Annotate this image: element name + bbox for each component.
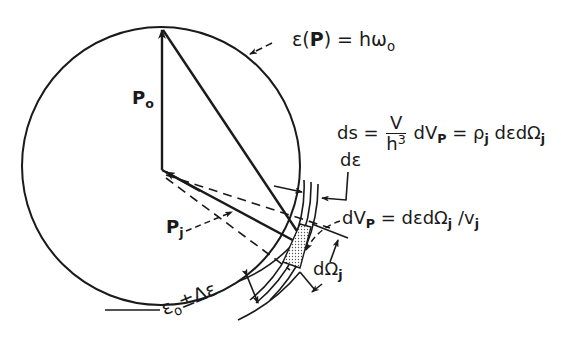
sub-j2: j <box>541 131 545 146</box>
subscript-o: o <box>387 39 395 54</box>
pj-symbol: P <box>166 216 179 237</box>
p0-subscript: o <box>145 96 154 111</box>
d-omega-symbol: dΩ <box>313 258 338 279</box>
p0-label: Po <box>132 89 154 107</box>
ds-lhs: ds = <box>337 122 384 143</box>
sub-p: P <box>366 216 375 231</box>
cone-line-upper <box>166 175 330 228</box>
d-eps-label: dε <box>340 151 361 169</box>
d-eps-d-omega: dεdΩ <box>489 122 541 143</box>
fraction-numerator: V <box>386 114 405 134</box>
slash-v: /v <box>452 207 474 228</box>
sub-j: j <box>338 267 342 282</box>
equals-h-omega: = hω <box>331 28 387 50</box>
dv-text: dV <box>408 122 437 143</box>
energy-surface-leader <box>250 43 272 54</box>
dv-text: dV <box>342 207 366 228</box>
ds-formula: ds = Vh3 dVP = ρj dεdΩj <box>337 114 545 153</box>
eq-rho: = ρ <box>446 122 484 143</box>
pj-leader <box>186 212 232 231</box>
eps-symbol: ε <box>351 149 361 170</box>
paren-close: ) <box>324 28 331 50</box>
fraction-denominator: h3 <box>386 134 405 153</box>
eq-d-eps-d-omega: = dεdΩ <box>375 207 448 228</box>
sub-j2: j <box>475 216 479 231</box>
den-exponent: 3 <box>398 132 406 147</box>
eps-symbol: ε <box>292 28 302 50</box>
delta-eps-arc-outer <box>238 272 300 320</box>
d-eps-leader <box>322 172 348 200</box>
dvp-leader <box>306 221 340 250</box>
den-h: h <box>386 133 397 154</box>
energy-surface-label: ε(P) = hωo <box>292 30 395 49</box>
d-symbol: d <box>340 149 351 170</box>
pj-label: Pj <box>166 218 184 236</box>
momentum-symbol: P <box>310 28 324 50</box>
paren-open: ( <box>302 28 309 50</box>
sub-p: P <box>437 131 446 146</box>
energy-shell-diagram <box>0 0 561 338</box>
d-omega-label: dΩj <box>313 260 343 278</box>
dvp-formula: dVP = dεdΩj /vj <box>342 209 479 227</box>
v-over-h3-fraction: Vh3 <box>386 114 405 153</box>
sub-j: j <box>448 216 452 231</box>
p0-symbol: P <box>132 87 145 108</box>
sub-j: j <box>484 131 488 146</box>
pj-subscript: j <box>179 225 183 240</box>
